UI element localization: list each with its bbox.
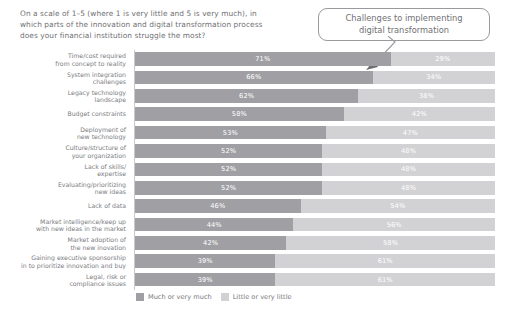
- chart-row: Time/cost requiredfrom concept to realit…: [0, 50, 510, 68]
- category-label: Lack of data: [8, 203, 126, 210]
- bar-segment-little: 48%: [322, 163, 495, 177]
- bar-segment-little: 29%: [391, 52, 495, 66]
- stacked-bar: 42%58%: [135, 236, 495, 250]
- legend-item: Much or very much: [136, 293, 212, 301]
- chart-plot-area: Time/cost requiredfrom concept to realit…: [0, 50, 510, 290]
- bar-segment-much: 39%: [135, 254, 275, 268]
- bar-segment-little: 58%: [286, 236, 495, 250]
- bar-segment-little: 48%: [322, 144, 495, 158]
- bar-segment-much: 71%: [135, 52, 391, 66]
- category-label: Time/cost requiredfrom concept to realit…: [8, 52, 126, 67]
- chart-row: Culture/structure ofyour organization52%…: [0, 142, 510, 160]
- stacked-bar: 53%47%: [135, 126, 495, 140]
- bar-segment-little: 61%: [275, 273, 495, 287]
- category-label: Gaining executive sponsorshipin to prior…: [8, 254, 126, 269]
- stacked-bar: 52%48%: [135, 144, 495, 158]
- legend-swatch: [136, 293, 144, 301]
- chart-row: Evaluating/prioritizingnew ideas52%48%: [0, 179, 510, 197]
- category-label: Evaluating/prioritizingnew ideas: [8, 181, 126, 196]
- bar-segment-much: 52%: [135, 163, 322, 177]
- legend-label: Little or very little: [233, 293, 292, 301]
- chart-row: Budget constraints58%42%: [0, 105, 510, 123]
- bar-segment-little: 61%: [275, 254, 495, 268]
- chart-row: Market intelligence/keep upwith new idea…: [0, 216, 510, 234]
- stacked-bar: 46%54%: [135, 199, 495, 213]
- stacked-bar: 44%56%: [135, 218, 495, 232]
- chart-row: Gaining executive sponsorshipin to prior…: [0, 252, 510, 270]
- legend-swatch: [221, 293, 229, 301]
- bar-segment-little: 34%: [373, 71, 495, 85]
- category-label: Deployment ofnew technology: [8, 125, 126, 140]
- category-label: System integrationchallenges: [8, 70, 126, 85]
- stacked-bar: 52%48%: [135, 163, 495, 177]
- chart-row: System integrationchallenges66%34%: [0, 68, 510, 86]
- bar-segment-little: 54%: [301, 199, 495, 213]
- bar-segment-much: 52%: [135, 144, 322, 158]
- bar-segment-much: 44%: [135, 218, 293, 232]
- chart-row: Lack of data46%54%: [0, 197, 510, 215]
- category-label: Legal, risk orcompliance issues: [8, 272, 126, 287]
- bar-segment-much: 39%: [135, 273, 275, 287]
- category-label: Culture/structure ofyour organization: [8, 144, 126, 159]
- stacked-bar: 58%42%: [135, 107, 495, 121]
- category-label: Market adoption ofthe new inovation: [8, 236, 126, 251]
- chart-row: Deployment ofnew technology53%47%: [0, 124, 510, 142]
- bar-segment-much: 58%: [135, 107, 344, 121]
- chart-row: Market adoption ofthe new inovation42%58…: [0, 234, 510, 252]
- bar-segment-little: 48%: [322, 181, 495, 195]
- bar-segment-much: 66%: [135, 71, 373, 85]
- bar-segment-much: 46%: [135, 199, 301, 213]
- bar-segment-little: 47%: [326, 126, 495, 140]
- chart-container: On a scale of 1–5 (where 1 is very littl…: [0, 0, 510, 315]
- annotation-callout: Challenges to implementing digital trans…: [318, 8, 490, 41]
- legend-label: Much or very much: [148, 293, 212, 301]
- stacked-bar: 39%61%: [135, 273, 495, 287]
- chart-row: Lack of skills/expertise52%48%: [0, 160, 510, 178]
- annotation-line-2: digital transformation: [359, 25, 449, 35]
- stacked-bar: 39%61%: [135, 254, 495, 268]
- category-label: Legacy technologylandscape: [8, 89, 126, 104]
- stacked-bar: 66%34%: [135, 71, 495, 85]
- bar-segment-much: 52%: [135, 181, 322, 195]
- stacked-bar: 62%38%: [135, 89, 495, 103]
- bar-segment-little: 42%: [344, 107, 495, 121]
- bar-segment-much: 62%: [135, 89, 358, 103]
- stacked-bar: 71%29%: [135, 52, 495, 66]
- bar-segment-much: 42%: [135, 236, 286, 250]
- chart-question-title: On a scale of 1–5 (where 1 is very littl…: [20, 8, 270, 42]
- bar-segment-much: 53%: [135, 126, 326, 140]
- stacked-bar: 52%48%: [135, 181, 495, 195]
- chart-row: Legal, risk orcompliance issues39%61%: [0, 271, 510, 289]
- chart-row: Legacy technologylandscape62%38%: [0, 87, 510, 105]
- annotation-line-1: Challenges to implementing: [346, 13, 463, 23]
- category-label: Lack of skills/expertise: [8, 162, 126, 177]
- category-label: Budget constraints: [8, 111, 126, 118]
- bar-segment-little: 56%: [293, 218, 495, 232]
- bar-segment-little: 38%: [358, 89, 495, 103]
- annotation-callout-text: Challenges to implementing digital trans…: [346, 13, 463, 36]
- legend-item: Little or very little: [221, 293, 292, 301]
- category-label: Market intelligence/keep upwith new idea…: [8, 217, 126, 232]
- chart-legend: Much or very muchLittle or very little: [136, 293, 292, 301]
